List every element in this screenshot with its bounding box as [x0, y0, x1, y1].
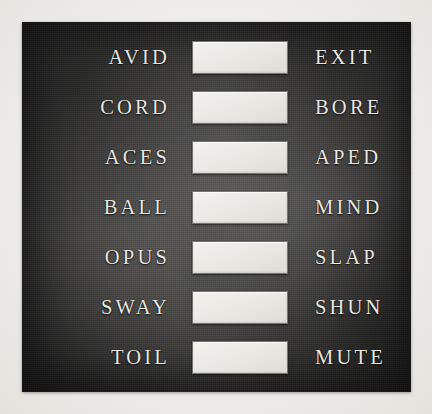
word-pair-row: OPUS SLAP: [39, 235, 394, 279]
answer-input-4[interactable]: [192, 191, 288, 224]
slate-panel: AVID EXIT CORD BORE ACES APED BALL MIND: [22, 22, 411, 392]
answer-input-3[interactable]: [192, 141, 288, 174]
answer-input-6[interactable]: [192, 291, 288, 324]
left-word-2: CORD: [39, 97, 170, 118]
right-word-5: SLAP: [297, 247, 411, 268]
right-word-3: APED: [297, 147, 411, 168]
word-pair-row: CORD BORE: [39, 85, 394, 129]
right-word-7: MUTE: [297, 347, 411, 368]
answer-input-5[interactable]: [192, 241, 288, 274]
answer-input-7[interactable]: [192, 341, 288, 374]
word-pair-row: TOIL MUTE: [39, 335, 394, 379]
left-word-4: BALL: [39, 197, 170, 218]
right-word-6: SHUN: [297, 297, 411, 318]
puzzle-screen: AVID EXIT CORD BORE ACES APED BALL MIND: [0, 0, 432, 414]
left-word-6: SWAY: [39, 297, 170, 318]
left-word-7: TOIL: [39, 347, 170, 368]
word-pair-list: AVID EXIT CORD BORE ACES APED BALL MIND: [22, 22, 411, 392]
left-word-5: OPUS: [39, 247, 170, 268]
word-pair-row: AVID EXIT: [39, 35, 394, 79]
right-word-1: EXIT: [297, 47, 411, 68]
right-word-2: BORE: [297, 97, 411, 118]
word-pair-row: ACES APED: [39, 135, 394, 179]
right-word-4: MIND: [297, 197, 411, 218]
left-word-1: AVID: [39, 47, 170, 68]
answer-input-1[interactable]: [192, 41, 288, 74]
word-pair-row: SWAY SHUN: [39, 285, 394, 329]
word-pair-row: BALL MIND: [39, 185, 394, 229]
left-word-3: ACES: [39, 147, 170, 168]
answer-input-2[interactable]: [192, 91, 288, 124]
